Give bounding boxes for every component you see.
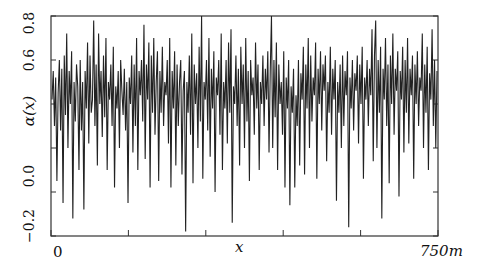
x-tick-label-750m: 750m <box>420 242 463 260</box>
x-axis-title: x <box>235 238 243 256</box>
y-tick-label-neg0.2: −0.2 <box>21 201 37 251</box>
y-axis-title: α(x) <box>21 86 37 136</box>
x-tick-label-0: 0 <box>53 243 63 261</box>
line-plot <box>0 0 477 274</box>
series-line <box>52 16 437 232</box>
y-tick-label-0.6: 0.6 <box>21 35 37 85</box>
x-axis-ticks <box>51 230 438 236</box>
y-tick-label-0.0: 0.0 <box>21 151 37 201</box>
